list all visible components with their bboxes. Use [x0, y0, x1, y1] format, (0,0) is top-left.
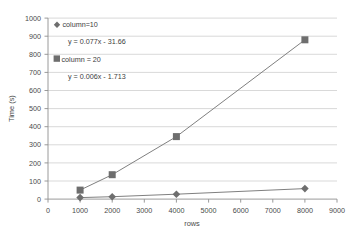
chart-legend: column=10 y = 0.077x - 31.66 column = 20…: [54, 20, 126, 80]
data-point-marker: [301, 185, 309, 193]
y-tick-label: 100: [29, 177, 41, 186]
x-tick-label: 9000: [329, 206, 345, 215]
data-point-marker: [77, 187, 84, 194]
y-tick-label: 500: [29, 104, 41, 113]
data-point-marker: [109, 171, 116, 178]
equation-column-10: y = 0.077x - 31.66: [68, 37, 126, 46]
y-tick-label: 0: [37, 195, 41, 204]
y-tick-label: 1000: [25, 14, 41, 23]
legend-label-column-20: column = 20: [62, 55, 101, 64]
data-point-marker: [173, 190, 181, 198]
y-tick-label: 900: [29, 32, 41, 41]
y-tick-labels: 1000 900 800 700 600 500 400 300 200 100…: [25, 14, 41, 204]
equation-column-20: y = 0.006x - 1.713: [68, 72, 126, 81]
legend-label-column-10: column=10: [63, 20, 98, 29]
y-tick-label: 400: [29, 122, 41, 131]
square-marker-icon: [54, 55, 60, 61]
x-tick-label: 4000: [168, 206, 184, 215]
data-point-marker: [173, 133, 180, 140]
data-point-marker: [76, 194, 84, 202]
x-tick-label: 8000: [297, 206, 313, 215]
x-tick-labels: 0 1000 2000 3000 4000 5000 6000 7000 800…: [46, 206, 345, 215]
x-tick-label: 0: [46, 206, 50, 215]
x-tick-label: 2000: [104, 206, 120, 215]
y-tick-label: 300: [29, 140, 41, 149]
x-axis-title: rows: [184, 219, 200, 228]
y-tick-label: 200: [29, 159, 41, 168]
y-tick-label: 600: [29, 86, 41, 95]
x-tick-label: 3000: [136, 206, 152, 215]
x-tick-label: 6000: [233, 206, 249, 215]
data-point-marker: [301, 36, 308, 43]
y-axis: [45, 18, 49, 199]
y-tick-label: 700: [29, 68, 41, 77]
x-tick-label: 5000: [201, 206, 217, 215]
y-tick-label: 800: [29, 50, 41, 59]
x-axis: [48, 199, 337, 203]
chart-container: 1000 900 800 700 600 500 400 300 200 100…: [0, 0, 353, 236]
series-column-20: [77, 36, 309, 193]
x-tick-label: 1000: [72, 206, 88, 215]
line-chart: 1000 900 800 700 600 500 400 300 200 100…: [0, 0, 353, 236]
y-axis-title: Time (s): [7, 95, 16, 122]
diamond-marker-icon: [54, 22, 60, 28]
x-tick-label: 7000: [265, 206, 281, 215]
